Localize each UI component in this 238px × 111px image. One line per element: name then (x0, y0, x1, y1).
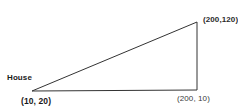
top-label-clipped: Service (181, 0, 210, 2)
triangle-shape (32, 22, 197, 91)
vertex-label-bottom-right: (200, 10) (177, 95, 210, 103)
vertex-label-house-coord: (10, 20) (21, 97, 51, 106)
vertex-label-top-right: (200,120) (203, 16, 238, 24)
diagram-canvas: Service (200,120) House (10, 20) (200, 1… (0, 0, 238, 111)
house-label: House (7, 74, 32, 82)
